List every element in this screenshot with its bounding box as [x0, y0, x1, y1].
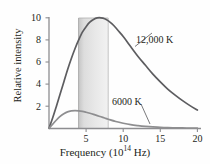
curve-6000k [49, 111, 197, 129]
y-tick-label-6: 6 [23, 57, 41, 67]
x-tick-label-20: 20 [188, 134, 206, 144]
y-tick-label-2: 2 [23, 102, 41, 112]
series-label-12000k: 12,000 K [136, 35, 173, 45]
x-tick-label-15: 15 [151, 134, 169, 144]
chart-figure: 2 4 6 8 10 5 10 15 20 Relative intensity… [0, 0, 210, 164]
y-tick-label-10: 10 [23, 13, 41, 23]
y-tick-label-4: 4 [23, 79, 41, 89]
y-axis-label: Relative intensity [12, 11, 23, 121]
series-label-6000k: 6000 K [112, 97, 142, 107]
x-axis-label-exponent: 14 [124, 144, 132, 153]
x-axis-label-prefix: Frequency (10 [60, 146, 124, 158]
x-axis-label-suffix: Hz) [131, 146, 150, 158]
y-tick-label-8: 8 [23, 35, 41, 45]
leader-line-6000k [141, 104, 150, 124]
x-tick-label-5: 5 [77, 134, 95, 144]
x-axis-label: Frequency (1014 Hz) [0, 146, 210, 158]
x-tick-label-10: 10 [114, 134, 132, 144]
